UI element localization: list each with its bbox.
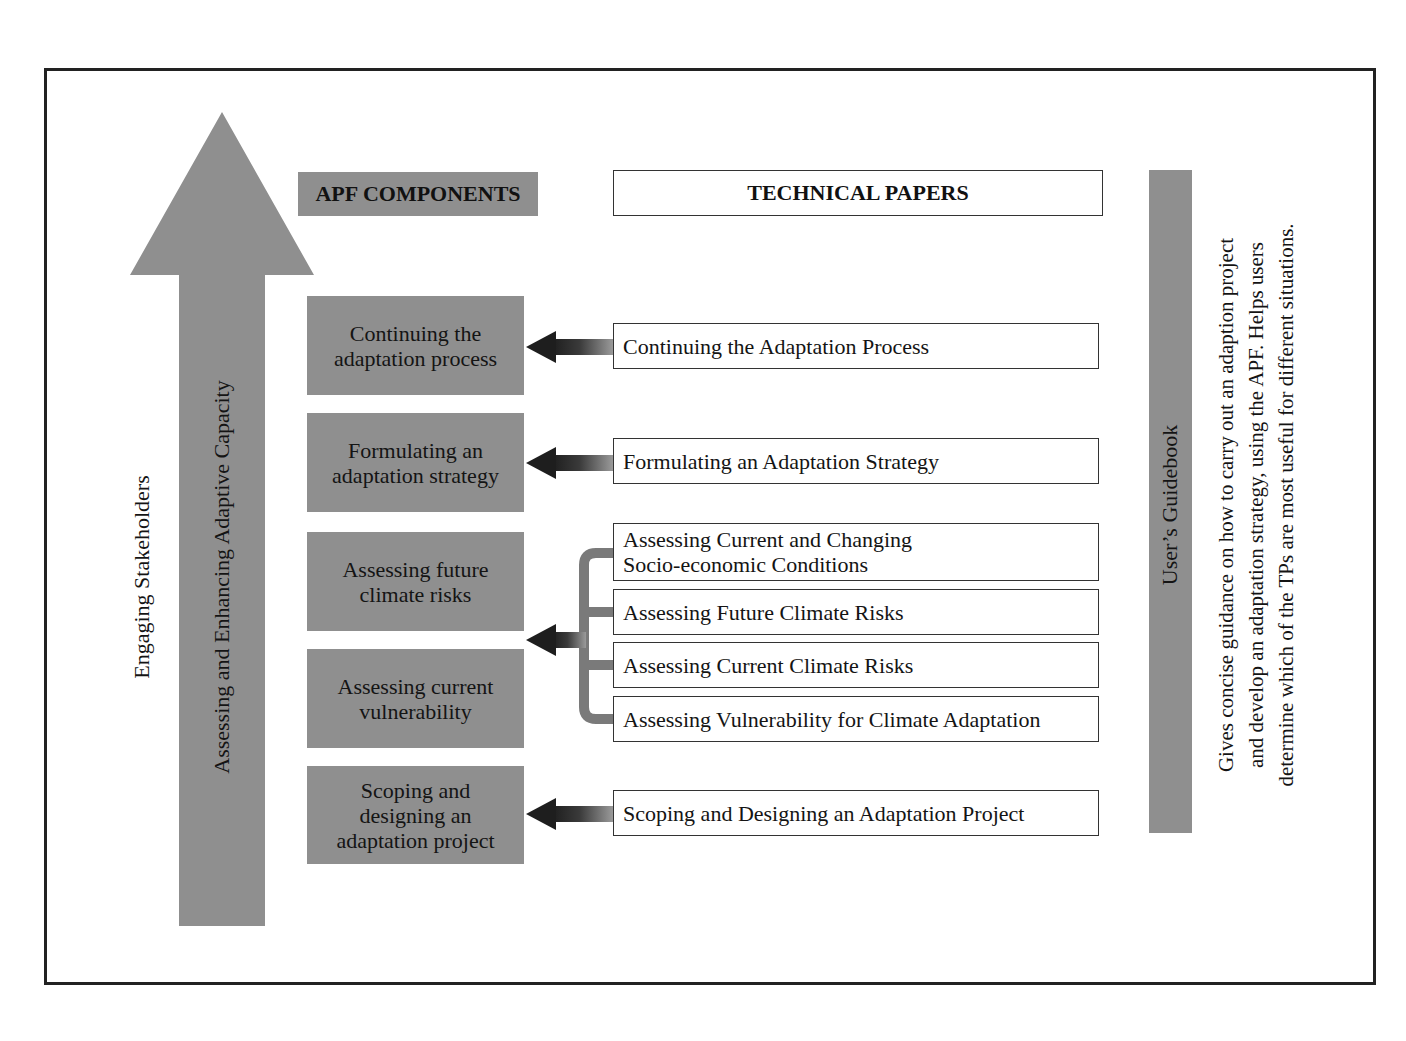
tp-label: Socio-economic Conditions bbox=[623, 552, 912, 577]
tp-continuing: Continuing the Adaptation Process bbox=[613, 323, 1099, 369]
component-label: Continuing the bbox=[334, 321, 497, 346]
tp-current-climate-risks: Assessing Current Climate Risks bbox=[613, 642, 1099, 688]
bracket-connector bbox=[526, 553, 613, 719]
tp-socio-economic: Assessing Current and Changing Socio-eco… bbox=[613, 523, 1099, 581]
tp-scoping: Scoping and Designing an Adaptation Proj… bbox=[613, 790, 1099, 836]
component-label: Assessing future bbox=[342, 557, 488, 582]
tp-label: Continuing the Adaptation Process bbox=[623, 334, 929, 359]
users-guidebook-title: User’s Guidebook bbox=[1157, 425, 1183, 585]
technical-papers-header: TECHNICAL PAPERS bbox=[613, 170, 1103, 216]
guidebook-description-line: Gives concise guidance on how to carry o… bbox=[1214, 238, 1239, 772]
engaging-stakeholders-label: Engaging Stakeholders bbox=[129, 475, 155, 678]
tp-label: Assessing Current and Changing bbox=[623, 527, 912, 552]
guidebook-description-line: and develop an adaptation strategy, usin… bbox=[1244, 242, 1269, 768]
tp-label: Assessing Current Climate Risks bbox=[623, 653, 913, 678]
component-label: adaptation strategy bbox=[332, 463, 499, 488]
tp-future-climate-risks: Assessing Future Climate Risks bbox=[613, 589, 1099, 635]
tp-label: Assessing Future Climate Risks bbox=[623, 600, 904, 625]
component-label: Assessing current bbox=[338, 674, 494, 699]
component-current-vulnerability: Assessing current vulnerability bbox=[307, 649, 524, 748]
component-label: adaptation project bbox=[336, 828, 494, 853]
tp-label: Scoping and Designing an Adaptation Proj… bbox=[623, 801, 1024, 826]
component-label: vulnerability bbox=[338, 699, 494, 724]
component-label: Scoping and bbox=[336, 778, 494, 803]
component-formulating: Formulating an adaptation strategy bbox=[307, 413, 524, 512]
adaptive-capacity-label: Assessing and Enhancing Adaptive Capacit… bbox=[209, 380, 235, 773]
tp-label: Formulating an Adaptation Strategy bbox=[623, 449, 939, 474]
guidebook-description-line: determine which of the TPs are most usef… bbox=[1274, 223, 1299, 786]
component-label: adaptation process bbox=[334, 346, 497, 371]
arrow-left-icon bbox=[526, 798, 613, 830]
component-continuing: Continuing the adaptation process bbox=[307, 296, 524, 395]
tp-vulnerability: Assessing Vulnerability for Climate Adap… bbox=[613, 696, 1099, 742]
apf-components-header: APF COMPONENTS bbox=[298, 172, 538, 216]
component-label: Formulating an bbox=[332, 438, 499, 463]
tp-formulating: Formulating an Adaptation Strategy bbox=[613, 438, 1099, 484]
arrow-left-icon bbox=[526, 447, 613, 479]
component-label: climate risks bbox=[342, 582, 488, 607]
component-label: designing an bbox=[336, 803, 494, 828]
component-scoping: Scoping and designing an adaptation proj… bbox=[307, 766, 524, 864]
arrow-left-icon bbox=[526, 331, 613, 363]
component-future-risks: Assessing future climate risks bbox=[307, 532, 524, 631]
tp-label: Assessing Vulnerability for Climate Adap… bbox=[623, 707, 1040, 732]
